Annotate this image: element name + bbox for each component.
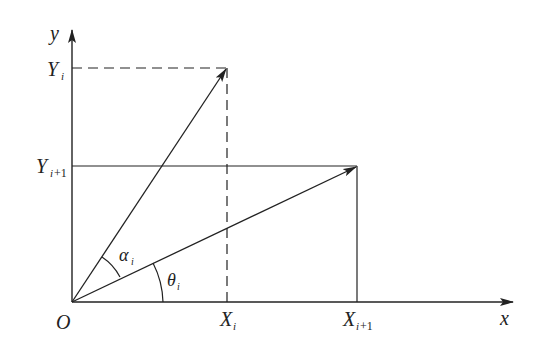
vector-i	[72, 69, 226, 302]
svg-text:+1: +1	[360, 319, 373, 333]
yi-tick-label: Y i	[47, 58, 64, 82]
svg-text:X: X	[342, 308, 356, 330]
svg-text:i: i	[233, 320, 236, 332]
svg-text:+1: +1	[54, 166, 67, 180]
y-axis-label: y	[48, 22, 59, 45]
diagram-canvas: y x O Y i Y i +1 X i X i +1 α i θ i	[0, 0, 536, 348]
theta-arc	[153, 263, 163, 302]
svg-text:i: i	[177, 281, 180, 292]
x-axis-label: x	[499, 307, 509, 329]
vector-i1	[72, 167, 356, 302]
svg-text:i: i	[61, 70, 64, 82]
theta-angle-label: θ i	[167, 270, 180, 292]
svg-text:i: i	[356, 320, 359, 332]
xi1-tick-label: X i +1	[342, 308, 373, 333]
rotation-diagram: y x O Y i Y i +1 X i X i +1 α i θ i	[0, 0, 536, 348]
svg-text:i: i	[131, 256, 134, 267]
alpha-arc	[102, 257, 120, 277]
svg-text:Y: Y	[47, 58, 60, 80]
origin-label: O	[56, 311, 70, 333]
svg-text:θ: θ	[167, 270, 176, 290]
alpha-angle-label: α i	[119, 245, 134, 267]
svg-text:i: i	[50, 167, 53, 179]
xi-tick-label: X i	[219, 308, 236, 332]
yi1-tick-label: Y i +1	[36, 155, 67, 180]
svg-text:α: α	[119, 245, 129, 265]
svg-text:X: X	[219, 308, 233, 330]
svg-text:Y: Y	[36, 155, 49, 177]
